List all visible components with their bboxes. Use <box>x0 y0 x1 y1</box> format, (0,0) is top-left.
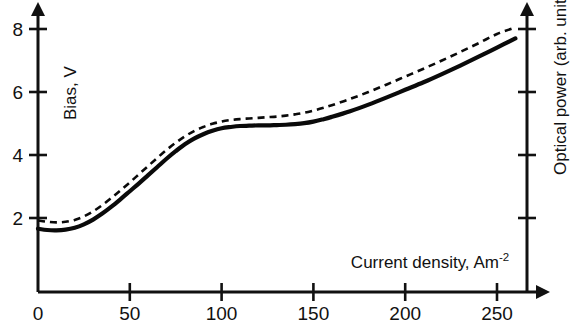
x-tick-label-0: 0 <box>33 303 44 324</box>
y-axis-left-title: Bias, V <box>61 65 80 120</box>
curves-group <box>38 27 515 230</box>
x-axis-arrow-icon <box>536 285 550 299</box>
x-axis-title: Current density, Am-2 <box>351 251 509 272</box>
left-axis-arrow-icon <box>31 2 45 16</box>
x-tick-label-150: 150 <box>298 303 330 324</box>
x-tick-label-200: 200 <box>389 303 421 324</box>
chart-figure: 2468050100150200250Bias, VOptical power … <box>0 0 578 332</box>
right-axis-arrow-icon <box>520 2 534 16</box>
x-tick-label-100: 100 <box>206 303 238 324</box>
y-axis-right-title: Optical power (arb. units) <box>551 0 570 175</box>
y-tick-label-4: 4 <box>12 145 23 166</box>
chart-canvas: 2468050100150200250Bias, VOptical power … <box>0 0 578 332</box>
y-tick-label-8: 8 <box>12 19 23 40</box>
y-tick-label-6: 6 <box>12 82 23 103</box>
x-tick-label-250: 250 <box>481 303 513 324</box>
y-tick-label-2: 2 <box>12 208 23 229</box>
x-tick-label-50: 50 <box>119 303 140 324</box>
series-bias-line <box>38 38 515 230</box>
labels-group: 2468050100150200250Bias, VOptical power … <box>12 0 570 324</box>
